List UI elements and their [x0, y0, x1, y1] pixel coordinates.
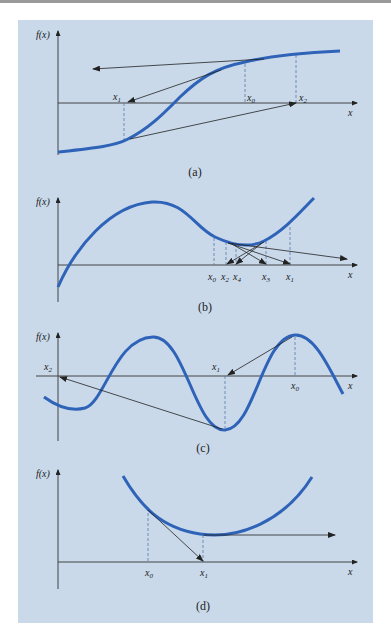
x-axis-label-b: x	[347, 269, 353, 280]
x-axis-label-a: x	[347, 107, 353, 118]
y-axis-label-a: f(x)	[36, 29, 51, 41]
x-axis-label-c: x	[347, 380, 353, 391]
x-axis-label-d: x	[347, 566, 353, 577]
panel-caption-a: (a)	[188, 165, 201, 179]
panel-caption-d: (d)	[196, 599, 210, 613]
y-axis-label-b: f(x)	[36, 196, 51, 208]
newton-raphson-pitfalls-figure: f(x) x x1 x0 x2 (a) f(x) x	[0, 0, 391, 643]
y-axis-label-c: f(x)	[36, 331, 51, 343]
panel-caption-b: (b)	[198, 300, 212, 314]
panel-caption-c: (c)	[196, 441, 209, 455]
y-axis-label-d: f(x)	[36, 468, 51, 480]
